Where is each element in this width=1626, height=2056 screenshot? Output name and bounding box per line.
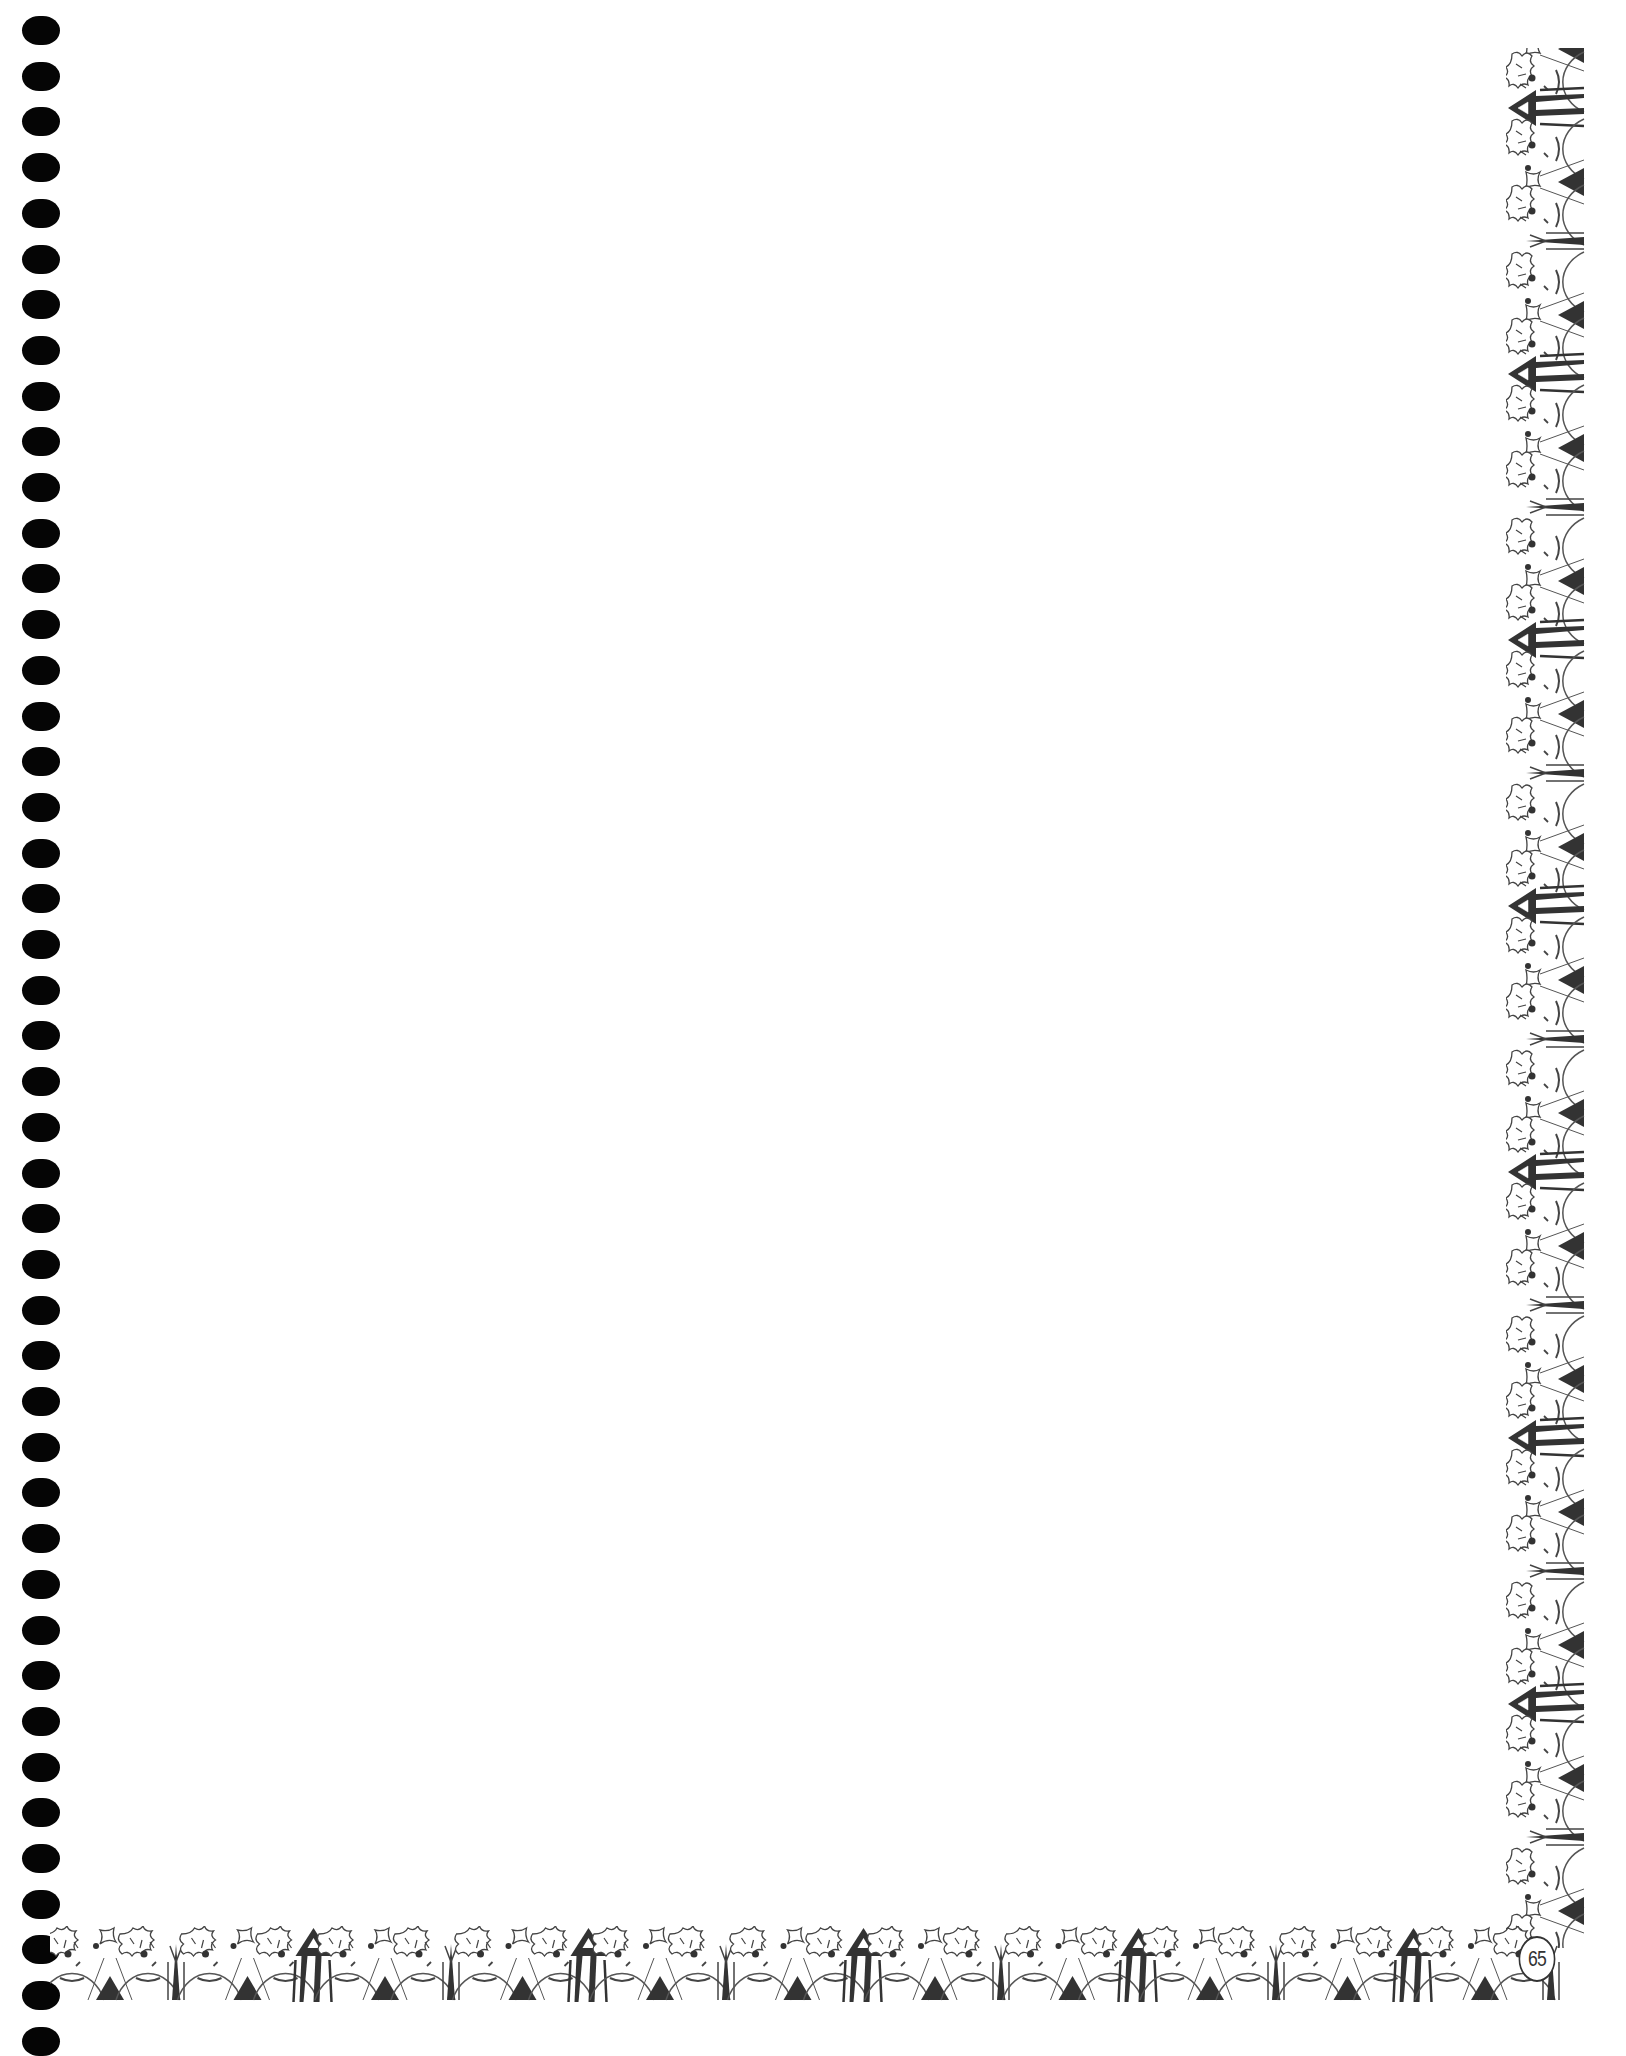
right-border-pattern-icon (1506, 48, 1586, 1948)
binding-hole (22, 1250, 60, 1279)
binding-hole (22, 2027, 60, 2056)
blank-writing-area (90, 40, 1490, 1910)
binding-hole (22, 839, 60, 868)
binding-hole (22, 290, 60, 319)
binding-hole (22, 1067, 60, 1096)
binding-hole (22, 336, 60, 365)
bottom-decorative-border (50, 1926, 1586, 2004)
binding-hole (22, 16, 60, 45)
binding-hole (22, 1844, 60, 1873)
binding-hole (22, 199, 60, 228)
binding-hole (22, 1616, 60, 1645)
bottom-border-pattern-icon (50, 1926, 1586, 2004)
binding-hole (22, 1341, 60, 1370)
binding-hole (22, 1021, 60, 1050)
binding-hole (22, 1113, 60, 1142)
binding-hole (22, 1204, 60, 1233)
binding-hole (22, 976, 60, 1005)
binding-hole (22, 702, 60, 731)
binding-hole (22, 62, 60, 91)
binding-hole (22, 153, 60, 182)
page-number: 65 (1519, 1936, 1556, 1982)
binding-hole (22, 1478, 60, 1507)
binding-hole (22, 1524, 60, 1553)
binding-hole (22, 1433, 60, 1462)
binding-hole (22, 1890, 60, 1919)
binding-hole (22, 1387, 60, 1416)
binding-hole (22, 382, 60, 411)
binding-hole (22, 519, 60, 548)
binding-hole (22, 473, 60, 502)
binding-hole (22, 884, 60, 913)
right-decorative-border (1506, 48, 1586, 1948)
binding-hole (22, 1159, 60, 1188)
binding-hole (22, 1798, 60, 1827)
binding-hole (22, 107, 60, 136)
binding-hole (22, 610, 60, 639)
binding-hole (22, 747, 60, 776)
binding-hole (22, 930, 60, 959)
binding-hole (22, 427, 60, 456)
binding-hole (22, 1570, 60, 1599)
binding-hole (22, 1661, 60, 1690)
binding-hole (22, 1753, 60, 1782)
binding-hole (22, 1296, 60, 1325)
binding-hole (22, 245, 60, 274)
binding-hole (22, 793, 60, 822)
binding-hole (22, 1707, 60, 1736)
binding-hole (22, 564, 60, 593)
spiral-binding (22, 0, 62, 2045)
binding-hole (22, 656, 60, 685)
